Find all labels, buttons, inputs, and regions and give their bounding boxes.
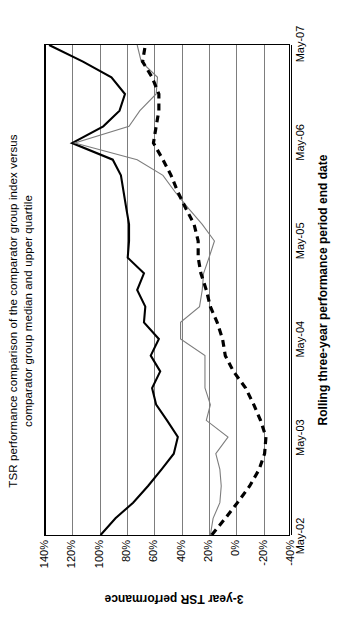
series-line [143, 45, 266, 535]
x-axis-tick-label: May-02 [294, 501, 306, 571]
y-axis-tick-label: 60% [148, 540, 159, 586]
y-axis-tick-label: 20% [203, 540, 214, 586]
y-axis-tick-label: 140% [39, 540, 50, 586]
chart-title-line-1: TSR performance comparison of the compar… [6, 0, 21, 622]
plot-area [44, 44, 290, 536]
x-axis-tick-label: May-03 [294, 403, 306, 473]
y-axis-title: 3-year TSR performance [44, 592, 304, 606]
y-axis-tick-label: 120% [66, 540, 77, 586]
x-axis-tick-label: May-06 [294, 107, 306, 177]
chart-page: TSR performance comparison of the compar… [0, 0, 348, 622]
y-axis-tick-label: 0% [230, 540, 241, 586]
y-axis-tick-label: 80% [121, 540, 132, 586]
x-axis-tick-label: May-07 [294, 9, 306, 79]
chart-title: TSR performance comparison of the compar… [6, 0, 36, 622]
x-axis-title: Rolling three-year performance period en… [316, 44, 330, 536]
y-axis-tick-label: 40% [175, 540, 186, 586]
x-axis-tick-label: May-04 [294, 304, 306, 374]
gridline [291, 45, 292, 535]
x-axis-tick-label: May-05 [294, 206, 306, 276]
y-axis-tick-labels: 140%120%100%80%60%40%20%0%-20%-40% [44, 540, 290, 592]
x-axis-tick-labels: May-02May-03May-04May-05May-06May-07 [294, 44, 312, 536]
y-axis-tick-label: 100% [93, 540, 104, 586]
rotated-chart-container: TSR performance comparison of the compar… [0, 0, 348, 622]
series-layer [45, 45, 289, 535]
chart: TSR performance comparison of the compar… [0, 0, 348, 622]
y-axis-tick-label: -20% [257, 540, 268, 586]
chart-title-line-2: comparator group median and upper quarti… [21, 0, 36, 622]
